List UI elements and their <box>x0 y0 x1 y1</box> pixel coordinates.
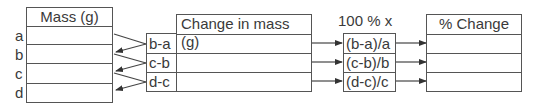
difference-labels: b-a c-b d-c <box>146 33 177 92</box>
formula-row: (b-a)/a <box>344 34 395 54</box>
change-cell-3[interactable] <box>177 72 311 91</box>
formula-row: (d-c)/c <box>344 72 395 91</box>
percent-table: % Change <box>426 14 522 92</box>
formula-item-1: (b-a)/a <box>344 34 395 53</box>
arrow-ba-to-b <box>116 44 146 52</box>
diff-label-dc: d-c <box>147 72 176 91</box>
connector-b-to-cb <box>114 54 146 63</box>
mass-cell-b[interactable] <box>27 45 112 64</box>
percent-cell-2[interactable] <box>427 53 521 73</box>
change-table: Change in mass (g) <box>176 14 312 92</box>
mass-cell-d[interactable] <box>27 84 112 103</box>
change-table-header: Change in mass (g) <box>177 15 311 35</box>
formula-item-2: (c-b)/b <box>344 53 395 72</box>
diff-label-cb: c-b <box>147 53 176 72</box>
mass-cell-a[interactable] <box>27 26 112 45</box>
row-label-b: b <box>15 47 23 63</box>
arrow-dc-to-d <box>116 82 146 90</box>
mass-table: Mass (g) <box>26 7 113 103</box>
mass-cell-c[interactable] <box>27 64 112 84</box>
row-label-d: d <box>15 85 23 101</box>
formula-header: 100 % x <box>338 13 392 29</box>
diff-label-row: d-c <box>147 72 176 91</box>
mass-table-header: Mass (g) <box>27 8 112 27</box>
diff-label-row: b-a <box>147 34 176 54</box>
diff-label-ba: b-a <box>147 34 176 53</box>
connector-a-to-ba <box>114 34 146 44</box>
change-cell-1[interactable] <box>177 34 311 54</box>
arrow-cb-to-c <box>116 63 146 71</box>
formula-box: (b-a)/a (c-b)/b (d-c)/c <box>343 33 396 92</box>
row-label-a: a <box>15 28 23 44</box>
connector-c-to-dc <box>114 73 146 82</box>
formula-row: (c-b)/b <box>344 53 395 73</box>
diff-label-row: c-b <box>147 53 176 73</box>
percent-cell-1[interactable] <box>427 34 521 54</box>
row-label-c: c <box>15 66 23 82</box>
percent-table-header: % Change <box>427 15 521 35</box>
change-cell-2[interactable] <box>177 53 311 73</box>
percent-cell-3[interactable] <box>427 72 521 91</box>
formula-item-3: (d-c)/c <box>344 72 395 91</box>
